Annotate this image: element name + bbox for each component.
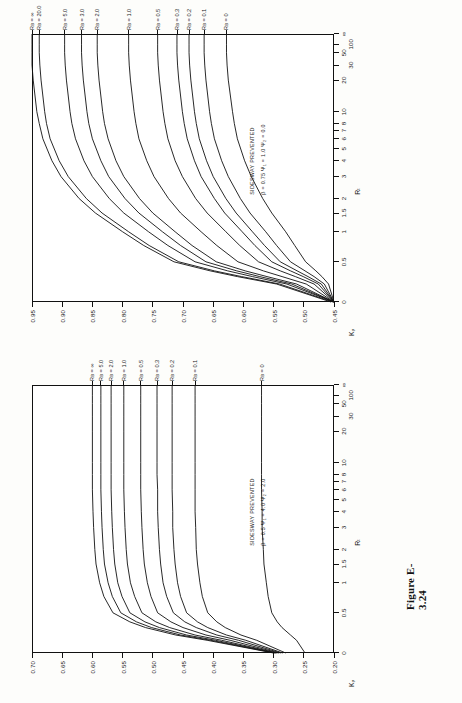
curve-label-tick-1 bbox=[100, 381, 101, 385]
curve-2 bbox=[111, 385, 276, 653]
curve-label-8: Rʙ = 0 bbox=[259, 365, 265, 382]
curve-label-tick-5 bbox=[128, 30, 129, 34]
curve-8 bbox=[189, 34, 334, 302]
curve-label-4: Rʙ = 2.0 bbox=[94, 9, 100, 30]
curve-label-tick-4 bbox=[140, 381, 141, 385]
curve-0 bbox=[92, 385, 273, 653]
curve-label-5: Rʙ = 1.0 bbox=[126, 9, 132, 30]
curve-label-6: Rʙ = 0.5 bbox=[155, 9, 161, 30]
curve-label-tick-3 bbox=[81, 30, 82, 34]
curve-2 bbox=[65, 34, 334, 302]
figure-e-3-24: 0.450.500.550.600.650.700.750.800.850.90… bbox=[0, 0, 462, 351]
curve-label-tick-6 bbox=[157, 30, 158, 34]
curve-label-2: Rʙ = 2.0 bbox=[108, 360, 114, 381]
curve-5 bbox=[129, 34, 334, 302]
curve-label-1: Rʙ = 5.0 bbox=[98, 360, 104, 381]
curve-label-tick-0 bbox=[32, 30, 33, 34]
curve-label-tick-7 bbox=[195, 381, 196, 385]
curve-3 bbox=[124, 385, 277, 653]
curve-label-9: Rʙ = 0.1 bbox=[201, 9, 207, 30]
curve-label-tick-8 bbox=[189, 30, 190, 34]
curve-6 bbox=[158, 34, 334, 302]
curve-label-0: Rʙ = ∞ bbox=[89, 364, 95, 381]
curve-label-3: Rʙ = 1.0 bbox=[121, 360, 127, 381]
curve-layer bbox=[18, 18, 448, 348]
curve-label-tick-10 bbox=[226, 30, 227, 34]
curve-label-7: Rʙ = 0.1 bbox=[192, 360, 198, 381]
curve-label-8: Rʙ = 0.2 bbox=[186, 9, 192, 30]
curve-9 bbox=[204, 34, 334, 302]
curve-label-5: Rʙ = 0.3 bbox=[154, 360, 160, 381]
curve-label-tick-5 bbox=[157, 381, 158, 385]
curve-label-tick-8 bbox=[261, 381, 262, 385]
curve-label-tick-2 bbox=[111, 381, 112, 385]
curve-label-6: Rʙ = 0.2 bbox=[169, 360, 175, 381]
curve-layer bbox=[18, 369, 448, 699]
curve-label-tick-4 bbox=[97, 30, 98, 34]
figure-e-3-23: 0.200.250.300.350.400.450.500.550.600.65… bbox=[0, 351, 462, 702]
curve-label-2: Rʙ = 5.0 bbox=[62, 9, 68, 30]
curve-0 bbox=[32, 34, 331, 302]
curve-8 bbox=[262, 385, 305, 653]
curve-label-0: Rʙ = ∞ bbox=[29, 13, 35, 30]
curve-label-7: Rʙ = 0.3 bbox=[174, 9, 180, 30]
curve-label-tick-7 bbox=[177, 30, 178, 34]
curve-4 bbox=[97, 34, 334, 302]
curve-label-tick-9 bbox=[204, 30, 205, 34]
curve-7 bbox=[177, 34, 334, 302]
curve-label-10: Rʙ = 0 bbox=[223, 14, 229, 31]
curve-label-tick-2 bbox=[64, 30, 65, 34]
curve-label-1: Rʙ = 20.0 bbox=[36, 6, 42, 30]
curve-1 bbox=[101, 385, 275, 653]
curve-label-4: Rʙ = 0.5 bbox=[138, 360, 144, 381]
curve-label-tick-0 bbox=[92, 381, 93, 385]
scanned-figure-page: 0.450.500.550.600.650.700.750.800.850.90… bbox=[0, 0, 462, 703]
curve-label-tick-3 bbox=[123, 381, 124, 385]
curve-label-3: Rʙ = 3.0 bbox=[79, 9, 85, 30]
curve-4 bbox=[141, 385, 279, 653]
curve-6 bbox=[172, 385, 283, 653]
curve-label-tick-1 bbox=[39, 30, 40, 34]
curve-label-tick-6 bbox=[172, 381, 173, 385]
